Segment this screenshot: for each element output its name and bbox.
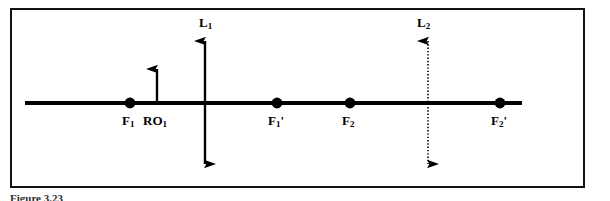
label-f1: F1 [122, 114, 134, 127]
optical-diagram [0, 0, 610, 201]
label-f2: F2 [342, 114, 354, 127]
label-f1-prime: F1' [268, 114, 284, 127]
label-l1: L1 [199, 16, 212, 29]
label-ro1: RO1 [143, 114, 167, 127]
label-l2: L2 [417, 16, 430, 29]
figure-caption: Figure 3.23 [10, 192, 570, 201]
focal-point-f1-prime [272, 98, 283, 109]
label-f2-prime: F2' [491, 114, 507, 127]
focal-point-f2-prime [495, 98, 506, 109]
focal-point-f1 [125, 98, 136, 109]
focal-point-f2 [345, 98, 356, 109]
figure-container: F1 F1' F2 F2' RO1 L1 L2 Figure 3.23 [0, 0, 610, 201]
